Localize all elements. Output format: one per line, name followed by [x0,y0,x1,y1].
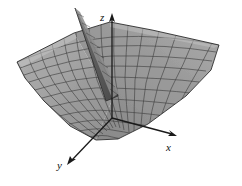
z-axis-label: z [100,12,104,23]
plot-canvas [0,0,242,186]
mesh-surface [17,22,219,141]
surface-plot-figure: z x y [0,0,242,186]
x-axis-label: x [166,142,171,153]
y-axis-label: y [57,160,62,171]
